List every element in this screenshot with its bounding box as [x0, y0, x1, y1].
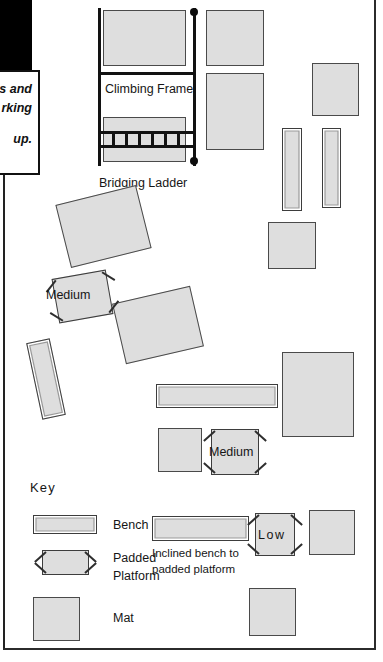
ladder-rung — [151, 131, 154, 146]
ladder-rung — [164, 131, 167, 146]
apparatus-plan-page: s and rking up. Climbing Frame Bridging … — [0, 0, 383, 662]
label-climbing-frame: Climbing Frame — [105, 82, 193, 96]
label-low-platform: Low — [258, 528, 285, 542]
bench-long-middle — [156, 384, 278, 408]
key-swatch-padded-platform — [42, 550, 89, 575]
frame-knob-top — [190, 8, 198, 16]
label-inclined-bench-line1: Inclined bench to — [152, 546, 239, 561]
frame-knob-bottom — [190, 157, 198, 165]
key-label-bench: Bench — [113, 517, 148, 533]
key-swatch-bench — [33, 515, 97, 534]
label-medium-platform-1: Medium — [46, 288, 90, 302]
bench-inclined — [152, 516, 249, 541]
mat-frame-bottom — [103, 117, 186, 162]
key-label-mat: Mat — [113, 610, 134, 626]
bench-rotated-left — [26, 338, 66, 419]
mat-rotated-mid — [112, 286, 204, 364]
frame-rail-left — [98, 8, 101, 166]
key-label-platform: Platform — [113, 568, 160, 584]
key-swatch-mat — [33, 597, 80, 641]
ladder-rung — [138, 131, 141, 146]
mat-low-right — [309, 510, 355, 555]
mat-top-right-2 — [206, 73, 264, 150]
bench-vertical-right-1 — [282, 128, 302, 211]
frame-bar-middle — [98, 72, 196, 75]
mat-frame-top — [103, 10, 186, 66]
page-border-bottom — [3, 648, 376, 650]
key-label-padded: Padded — [113, 550, 156, 566]
label-medium-platform-2: Medium — [209, 445, 253, 459]
label-inclined-bench-line2: padded platform — [152, 562, 235, 577]
mat-right-big — [282, 352, 354, 437]
mat-mid-right — [268, 222, 316, 269]
mat-bottom-mid — [249, 588, 296, 636]
mat-top-right-1 — [206, 10, 264, 66]
platform-body — [42, 550, 89, 575]
mat-upper-right — [312, 63, 359, 116]
ladder-rung — [112, 131, 115, 146]
label-bridging-ladder: Bridging Ladder — [99, 176, 187, 190]
key-title: Key — [30, 480, 56, 495]
ladder-rung — [125, 131, 128, 146]
mat-mid-small — [158, 428, 202, 472]
ladder-rung — [177, 131, 180, 146]
frame-rail-right — [193, 8, 196, 166]
bench-vertical-right-2 — [322, 128, 341, 208]
